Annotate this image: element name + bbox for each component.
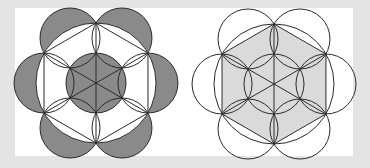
left-figure-shaded-petals	[14, 8, 178, 158]
diagram-canvas	[0, 0, 370, 168]
right-figure-shaded-hexagon	[192, 9, 356, 159]
